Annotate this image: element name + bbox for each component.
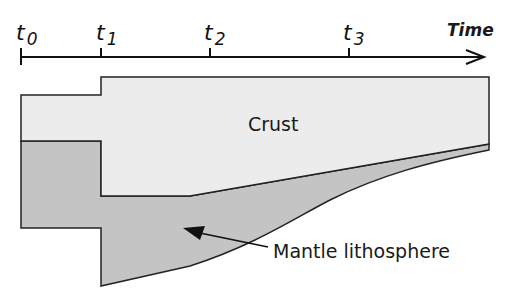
lithosphere-diagram: t0 t1 t2 t3 Time Crust Mantle lithospher… [0,0,509,302]
time-axis-label: Time [447,20,494,40]
crust-label: Crust [248,113,298,135]
tick-label-t0: t0 [16,20,37,49]
tick-label-t1: t1 [96,20,117,49]
tick-label-t2: t2 [204,20,225,49]
tick-label-t3: t3 [343,20,364,49]
time-axis: t0 t1 t2 t3 Time [16,20,494,65]
mantle-lithosphere-label: Mantle lithosphere [273,240,450,262]
